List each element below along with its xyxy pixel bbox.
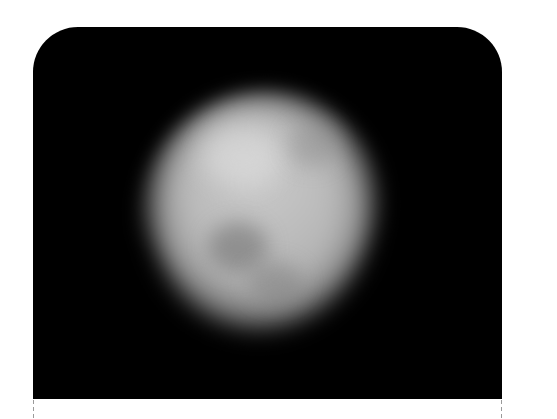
- bright-region: [203, 127, 283, 187]
- celestial-body: [99, 51, 425, 382]
- dark-surface-patch: [248, 262, 303, 302]
- photo-panel: [33, 27, 502, 399]
- dark-surface-patch: [288, 122, 338, 167]
- image-stage: [0, 0, 557, 419]
- right-guide-line: [501, 400, 502, 419]
- left-guide-line: [33, 400, 34, 419]
